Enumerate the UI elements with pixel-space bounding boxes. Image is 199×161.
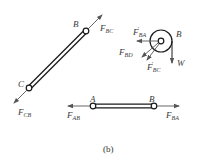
- label-c: C: [18, 79, 25, 89]
- label-f-ba: FBA: [165, 110, 179, 121]
- pin-b-icon: [83, 28, 89, 34]
- label-f-bd: FBD: [118, 47, 133, 58]
- label-b-pulley: B: [176, 29, 182, 39]
- label-f-ba-prime: F'BA: [132, 26, 146, 38]
- force-bc-prime-arrow-icon: [147, 44, 159, 60]
- free-body-diagram: B C FBC FCB A B FAB FBA B F'BA FBD F'BC …: [0, 0, 199, 161]
- pin-b-ab-icon: [151, 103, 157, 109]
- label-f-ab: FAB: [66, 110, 80, 121]
- pin-a-icon: [90, 103, 96, 109]
- label-f-bc-prime: F'BC: [146, 61, 161, 73]
- figure-caption: (b): [103, 144, 114, 154]
- pin-c-icon: [26, 85, 32, 91]
- force-cb-arrow-icon: [14, 90, 27, 103]
- label-b-ab: B: [149, 94, 155, 104]
- member-cb: [14, 15, 102, 103]
- label-a: A: [89, 94, 96, 104]
- pulley-pin-icon: [158, 38, 164, 44]
- label-w: W: [177, 58, 186, 68]
- label-b-cb: B: [73, 19, 79, 29]
- member-ab: [68, 103, 179, 109]
- label-f-bc: FBC: [99, 23, 114, 34]
- label-f-cb: FCB: [17, 107, 32, 118]
